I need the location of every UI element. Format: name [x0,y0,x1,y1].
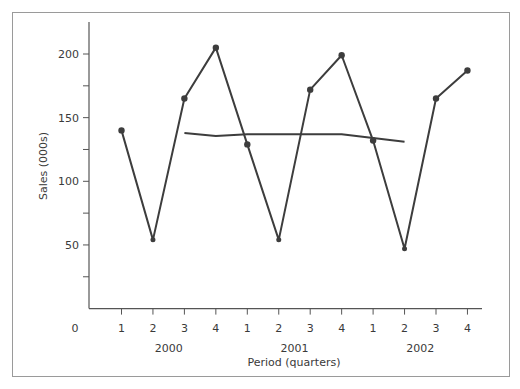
year-group-label: 2002 [406,342,434,355]
y-axis: 50100150200 [58,22,89,309]
series-layer [118,44,470,251]
data-point-marker [338,52,344,58]
x-tick-label: 2 [275,322,282,335]
x-tick-label: 1 [244,322,251,335]
y-tick-label: 150 [58,112,79,125]
x-tick-label: 3 [433,322,440,335]
y-tick-label: 50 [65,239,79,252]
data-point-marker [402,246,407,251]
sales-series [118,44,470,251]
x-origin-label: 0 [72,322,79,335]
x-axis-title: Period (quarters) [248,356,341,369]
x-tick-label: 4 [212,322,219,335]
y-axis-title: Sales (000s) [37,132,50,200]
x-tick-label: 4 [338,322,345,335]
x-tick-label: 1 [118,322,125,335]
data-point-marker [244,141,250,147]
data-point-marker [181,95,187,101]
sales-line-chart: 50100150200 123412341234200020012002 Sal… [0,0,520,389]
sales-line [122,48,468,249]
data-point-marker [307,86,313,92]
x-tick-label: 2 [149,322,156,335]
y-tick-label: 100 [58,175,79,188]
x-tick-label: 1 [370,322,377,335]
data-point-marker [276,237,281,242]
data-point-marker [150,237,155,242]
year-group-label: 2001 [280,342,308,355]
y-tick-label: 200 [58,48,79,61]
data-point-marker [433,95,439,101]
data-point-marker [464,67,470,73]
x-axis: 123412341234200020012002 [89,309,482,355]
data-point-marker [118,127,124,133]
x-tick-label: 3 [307,322,314,335]
data-point-marker [213,44,219,50]
x-tick-label: 3 [181,322,188,335]
x-tick-label: 4 [464,322,471,335]
x-tick-label: 2 [401,322,408,335]
year-group-label: 2000 [155,342,183,355]
